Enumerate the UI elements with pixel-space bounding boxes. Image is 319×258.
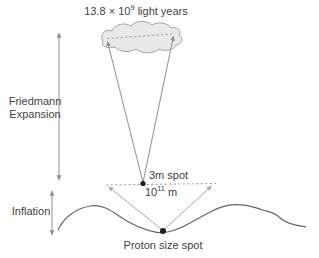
proton-spot-label: Proton size spot: [112, 239, 214, 251]
lightcone-left-line: [108, 42, 144, 183]
proton-spot-dot: [160, 228, 166, 234]
age-label-suffix: light years: [135, 5, 188, 17]
space-curve: [58, 205, 306, 233]
inflation-label: Inflation: [8, 205, 54, 217]
spot-3m-label: 3m spot: [149, 169, 188, 181]
distance-label-suffix: m: [165, 186, 177, 198]
age-label-prefix: 13.8 × 10: [84, 5, 130, 17]
friedmann-expansion-label: Friedmann Expansion: [6, 95, 64, 120]
distance-label: 1011 m: [145, 186, 177, 198]
friedmann-label-line2: Expansion: [6, 108, 64, 121]
friedmann-label-line1: Friedmann: [6, 95, 64, 108]
universe-cloud: [102, 21, 182, 52]
lightcone-right-line: [143, 36, 174, 183]
age-label: 13.8 × 109 light years: [70, 5, 202, 17]
diagram-svg: [0, 0, 319, 258]
distance-label-prefix: 10: [145, 186, 157, 198]
inflation-diagram: 13.8 × 109 light years Friedmann Expansi…: [0, 0, 319, 258]
distance-label-superscript: 11: [157, 184, 165, 193]
